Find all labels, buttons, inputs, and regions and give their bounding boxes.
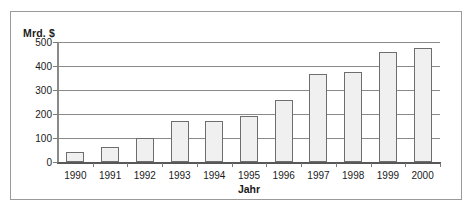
y-axis-tick-mark	[53, 114, 58, 115]
x-axis-tick-label: 2000	[412, 170, 434, 181]
x-axis-tick-mark	[232, 163, 233, 167]
x-axis-tick-label: 1992	[134, 170, 156, 181]
x-axis-line	[57, 162, 441, 164]
y-gridline	[58, 42, 440, 43]
x-axis-tick-mark	[301, 163, 302, 167]
y-axis-tick-label: 400	[35, 61, 52, 72]
x-axis-tick-mark	[197, 163, 198, 167]
x-axis-tick-mark	[127, 163, 128, 167]
bar	[379, 52, 397, 162]
bar	[344, 72, 362, 162]
y-axis-line	[57, 42, 59, 163]
y-axis-tick-mark	[53, 66, 58, 67]
y-axis-tick-mark	[53, 138, 58, 139]
y-axis-tick-label: 100	[35, 133, 52, 144]
x-axis-tick-label: 1991	[99, 170, 121, 181]
y-axis-tick-label: 300	[35, 85, 52, 96]
bar	[205, 121, 223, 162]
y-axis-tick-label: 200	[35, 109, 52, 120]
bar	[275, 100, 293, 162]
bar	[240, 116, 258, 162]
x-axis-tick-mark	[440, 163, 441, 167]
x-axis-tick-label: 1990	[64, 170, 86, 181]
bar	[309, 74, 327, 162]
x-axis-tick-mark	[162, 163, 163, 167]
bar	[66, 152, 84, 162]
x-axis-tick-label: 1999	[377, 170, 399, 181]
x-axis-title: Jahr	[238, 183, 260, 195]
x-axis-tick-label: 1998	[342, 170, 364, 181]
y-axis-tick-label: 0	[46, 157, 52, 168]
bar-chart-figure: Mrd. $ 5004003002001000 Jahr 19901991199…	[0, 0, 475, 213]
x-axis-tick-mark	[266, 163, 267, 167]
plot-area	[58, 42, 440, 162]
bar	[171, 121, 189, 162]
x-axis-tick-label: 1993	[168, 170, 190, 181]
bar	[136, 138, 154, 162]
y-axis-tick-labels: 5004003002001000	[0, 0, 52, 213]
x-axis-tick-mark	[93, 163, 94, 167]
x-axis-tick-label: 1997	[307, 170, 329, 181]
x-axis-tick-label: 1995	[238, 170, 260, 181]
y-axis-tick-mark	[53, 42, 58, 43]
x-axis-tick-mark	[405, 163, 406, 167]
y-axis-tick-mark	[53, 162, 58, 163]
x-axis-tick-label: 1994	[203, 170, 225, 181]
x-axis-tick-mark	[336, 163, 337, 167]
bar	[101, 147, 119, 162]
y-axis-tick-label: 500	[35, 37, 52, 48]
bar	[414, 48, 432, 162]
x-axis-tick-label: 1996	[273, 170, 295, 181]
x-axis-tick-mark	[371, 163, 372, 167]
y-axis-tick-mark	[53, 90, 58, 91]
